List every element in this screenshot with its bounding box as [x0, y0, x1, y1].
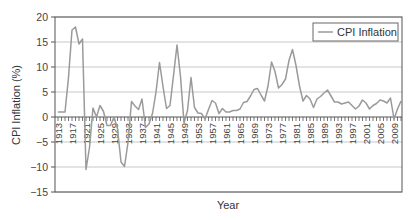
- x-tick-label: 1925: [95, 123, 106, 144]
- x-tick-label: 1965: [235, 123, 246, 144]
- y-tick-label: 0: [42, 111, 48, 123]
- cpi-inflation-chart: 20151050−5−10−15 19131917192119251929193…: [0, 0, 416, 220]
- x-axis-title: Year: [217, 199, 240, 211]
- x-tick-label: 1989: [319, 123, 330, 144]
- x-tick-label: 1957: [207, 123, 218, 144]
- x-tick-label: 1969: [249, 123, 260, 144]
- x-tick-label: 1981: [291, 123, 302, 144]
- legend-label: CPI Inflation: [337, 26, 397, 38]
- x-tick-label: 1961: [221, 123, 232, 144]
- y-axis-title: CPI Inflation (%): [10, 65, 22, 145]
- y-axis: 20151050−5−10−15: [30, 11, 55, 198]
- y-tick-label: −5: [36, 136, 48, 148]
- x-axis: 1913191719211925192919331937194119451949…: [53, 117, 403, 144]
- legend: CPI Inflation: [313, 23, 398, 41]
- x-tick-label: 1913: [53, 123, 64, 144]
- x-tick-label: 1977: [277, 123, 288, 144]
- x-tick-label: 1941: [151, 123, 162, 144]
- y-tick-label: 15: [36, 36, 48, 48]
- x-tick-label: 1993: [333, 123, 344, 144]
- x-tick-label: 1949: [179, 123, 190, 144]
- x-tick-label: 1917: [67, 123, 78, 144]
- x-tick-label: 1985: [305, 123, 316, 144]
- y-tick-label: −15: [30, 186, 48, 198]
- y-tick-label: −10: [30, 161, 48, 173]
- x-tick-label: 1973: [263, 123, 274, 144]
- x-tick-label: 1953: [193, 123, 204, 144]
- x-tick-label: 1945: [165, 123, 176, 144]
- x-tick-label: 2005: [375, 123, 386, 144]
- x-tick-label: 2001: [361, 123, 372, 144]
- y-tick-label: 5: [42, 86, 48, 98]
- x-tick-label: 1997: [347, 123, 358, 144]
- x-tick-label: 2009: [389, 123, 400, 144]
- y-tick-label: 10: [36, 61, 48, 73]
- y-tick-label: 20: [36, 11, 48, 23]
- cpi-inflation-line: [58, 27, 401, 170]
